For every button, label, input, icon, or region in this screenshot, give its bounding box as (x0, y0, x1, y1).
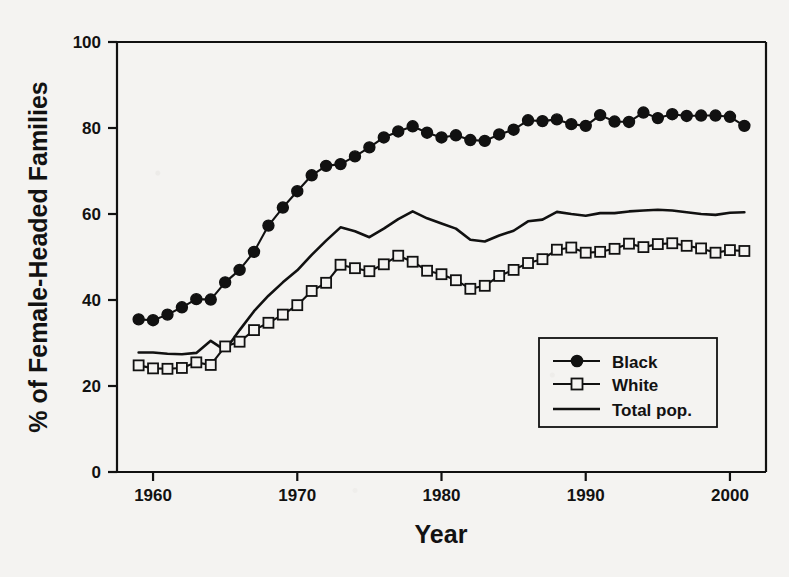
data-point (450, 130, 461, 141)
x-axis-ticks (153, 472, 730, 481)
x-axis-title: Year (415, 520, 468, 548)
data-point (206, 360, 216, 370)
data-point (422, 127, 433, 138)
data-point (638, 107, 649, 118)
y-axis-title: % of Female-Headed Families (24, 81, 52, 433)
legend-label-black: Black (612, 353, 658, 372)
data-point (595, 110, 606, 121)
open-square-icon (572, 379, 583, 390)
series-black (133, 107, 750, 326)
legend-entry-total-pop: Total pop. (553, 401, 692, 420)
x-tick-label: 1960 (134, 486, 172, 505)
line-chart: 020406080100 19601970198019902000 % of F… (0, 0, 789, 577)
data-point (277, 202, 288, 213)
data-point (566, 119, 577, 130)
data-point (191, 294, 202, 305)
data-point (437, 269, 447, 279)
y-tick-label: 100 (73, 33, 101, 52)
data-point (249, 325, 259, 335)
data-point (739, 246, 749, 256)
data-point (465, 284, 475, 294)
data-point (408, 257, 418, 267)
data-point (350, 263, 360, 273)
data-point (378, 132, 389, 143)
legend-entry-white: White (553, 376, 658, 395)
x-tick-label: 2000 (711, 486, 749, 505)
data-point (581, 248, 591, 258)
data-point (494, 271, 504, 281)
data-point (335, 159, 346, 170)
x-tick-label: 1990 (567, 486, 605, 505)
data-point (624, 239, 634, 249)
data-point (422, 266, 432, 276)
data-point (162, 364, 172, 374)
data-point (133, 314, 144, 325)
data-point (479, 135, 490, 146)
data-point (336, 260, 346, 270)
data-point (349, 151, 360, 162)
data-point (682, 241, 692, 251)
data-point (220, 277, 231, 288)
legend: Black White Total pop. (539, 338, 717, 427)
data-point (292, 186, 303, 197)
data-point (235, 337, 245, 347)
data-point (321, 278, 331, 288)
y-tick-label: 40 (82, 291, 101, 310)
data-point (263, 220, 274, 231)
data-point (696, 243, 706, 253)
data-point (537, 116, 548, 127)
chart-figure: 020406080100 19601970198019902000 % of F… (0, 0, 789, 577)
data-point (537, 254, 547, 264)
data-point (177, 363, 187, 373)
data-point (162, 309, 173, 320)
data-point (205, 294, 216, 305)
data-point (552, 245, 562, 255)
data-point (379, 259, 389, 269)
data-point (638, 242, 648, 252)
data-point (292, 300, 302, 310)
y-tick-label: 60 (82, 205, 101, 224)
data-point (220, 341, 230, 351)
y-tick-label: 20 (82, 377, 101, 396)
data-point (652, 113, 663, 124)
data-point (364, 142, 375, 153)
data-point (364, 266, 374, 276)
data-point (321, 160, 332, 171)
legend-entry-black: Black (553, 353, 658, 372)
data-point (494, 129, 505, 140)
data-point (307, 286, 317, 296)
data-point (623, 116, 634, 127)
data-point (610, 244, 620, 254)
data-point (249, 246, 260, 257)
data-point (681, 110, 692, 121)
data-point (134, 360, 144, 370)
data-point (523, 258, 533, 268)
data-point (667, 238, 677, 248)
data-point (465, 135, 476, 146)
x-tick-label: 1980 (423, 486, 461, 505)
data-point (653, 239, 663, 249)
data-point (724, 111, 735, 122)
data-point (263, 318, 273, 328)
data-point (696, 110, 707, 121)
data-point (595, 247, 605, 257)
y-axis-ticks (108, 42, 117, 472)
data-point (191, 357, 201, 367)
data-point (580, 120, 591, 131)
data-point (725, 245, 735, 255)
filled-circle-icon (572, 356, 583, 367)
data-point (451, 275, 461, 285)
data-point (711, 248, 721, 258)
y-tick-label: 80 (82, 119, 101, 138)
x-axis-tick-labels: 19601970198019902000 (134, 486, 749, 505)
data-point (306, 170, 317, 181)
data-point (739, 120, 750, 131)
data-point (393, 251, 403, 261)
legend-label-total-pop: Total pop. (612, 401, 692, 420)
data-point (566, 243, 576, 253)
y-tick-label: 0 (92, 463, 101, 482)
series-line (139, 113, 745, 321)
x-tick-label: 1970 (278, 486, 316, 505)
data-point (667, 109, 678, 120)
data-point (278, 310, 288, 320)
